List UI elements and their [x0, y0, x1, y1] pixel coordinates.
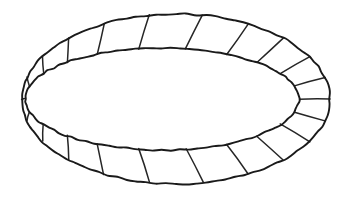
- segment-divider-9: [43, 124, 44, 141]
- ring-diagram: [0, 0, 345, 197]
- figure-root: [0, 0, 345, 197]
